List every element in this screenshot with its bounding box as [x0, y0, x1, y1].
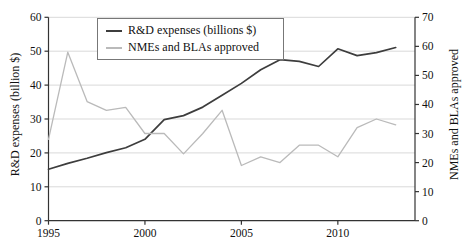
x-tick-label-1995: 1995: [37, 227, 60, 239]
legend-label-rnd-expenses: R&D expenses (billions $): [128, 23, 256, 38]
right-tick-label-10: 10: [422, 186, 434, 198]
right-tick-label-70: 70: [422, 11, 434, 23]
right-tick-label-20: 20: [422, 157, 434, 169]
x-tick-label-2010: 2010: [326, 227, 349, 239]
left-tick-label-50: 50: [30, 45, 42, 57]
right-tick-label-60: 60: [422, 40, 434, 52]
left-axis-title: R&D expenses (billion $): [8, 40, 23, 190]
legend-item-rnd-expenses: R&D expenses (billions $): [106, 22, 277, 39]
legend: R&D expenses (billions $) NMEs and BLAs …: [97, 18, 284, 60]
left-tick-label-0: 0: [36, 215, 42, 227]
legend-item-nme-bla: NMEs and BLAs approved: [106, 39, 277, 56]
legend-label-nme-bla: NMEs and BLAs approved: [128, 40, 259, 55]
chart-container: 0102030405060010203040506070199520002005…: [0, 0, 464, 252]
left-tick-label-10: 10: [30, 181, 42, 193]
left-tick-label-60: 60: [30, 11, 42, 23]
nme-bla-approved-line: [49, 52, 396, 165]
right-tick-label-0: 0: [422, 215, 428, 227]
right-axis-title: NMEs and BLAs approved: [447, 36, 462, 194]
left-tick-label-40: 40: [30, 79, 42, 91]
left-tick-label-30: 30: [30, 113, 42, 125]
right-tick-label-50: 50: [422, 69, 434, 81]
x-tick-label-2000: 2000: [133, 227, 156, 239]
x-tick-label-2005: 2005: [230, 227, 253, 239]
rnd-expenses-line-swatch: [106, 30, 122, 32]
right-tick-label-40: 40: [422, 98, 434, 110]
right-tick-label-30: 30: [422, 128, 434, 140]
nme-bla-line-swatch: [106, 47, 122, 49]
left-tick-label-20: 20: [30, 147, 42, 159]
